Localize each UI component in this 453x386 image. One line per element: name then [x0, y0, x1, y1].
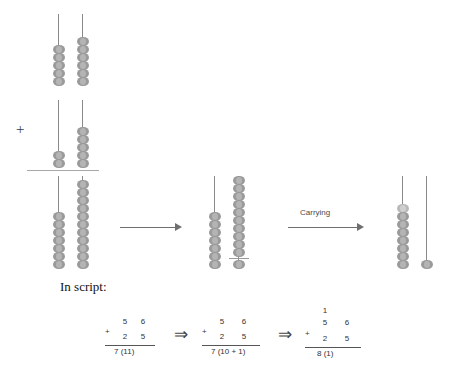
- bead: [209, 260, 221, 269]
- arrow-head: [357, 223, 364, 231]
- sum-rule: [105, 345, 155, 346]
- digit-bottom-ones: 5: [137, 332, 149, 341]
- rod-tens-addend1: [52, 14, 66, 86]
- bead: [397, 260, 409, 269]
- abacus-addend2: [52, 100, 96, 168]
- rod-tens-sum-carried: [396, 176, 410, 268]
- digit-top-ones: 6: [341, 318, 353, 327]
- rod-tens-sum-raw: [52, 176, 66, 268]
- abacus-sum-split: [208, 176, 252, 268]
- digit-top-tens: 5: [216, 317, 228, 326]
- bead: [77, 260, 89, 269]
- digit-top-tens: 5: [119, 317, 131, 326]
- rod-ones-sum-split: [232, 176, 246, 268]
- digit-bottom-ones: 5: [238, 332, 250, 341]
- arrow-to-split: [120, 222, 182, 232]
- figure-canvas: +: [0, 0, 453, 386]
- bead: [53, 159, 65, 168]
- digit-top-ones: 6: [238, 317, 250, 326]
- sum-result: 8 (1): [317, 349, 333, 358]
- arrow-carrying: [288, 222, 364, 232]
- rod-ones-sum-raw: [76, 176, 90, 268]
- arrow-shaft: [288, 227, 358, 228]
- digit-bottom-tens: 2: [119, 332, 131, 341]
- abacus-addend1: [52, 14, 96, 86]
- rod-wire: [426, 176, 427, 268]
- carrying-label: Carrying: [300, 208, 330, 217]
- operator: +: [202, 327, 207, 336]
- abacus-sum-raw: [52, 176, 96, 268]
- sum-rule: [305, 347, 361, 348]
- digit-top-tens: 5: [319, 318, 331, 327]
- bead: [53, 260, 65, 269]
- digit-top-ones: 6: [137, 317, 149, 326]
- carry-digit: 1: [319, 306, 331, 315]
- bead: [77, 159, 89, 168]
- script-step-3: 1 + 5 6 2 5 8 (1): [303, 300, 383, 362]
- rod-ones-sum-carried: [420, 176, 434, 268]
- bead: [421, 260, 433, 269]
- operator: +: [305, 329, 310, 338]
- script-step-2: + 5 6 2 5 7 (10 + 1): [200, 300, 280, 360]
- abacus-sum-carried: [396, 176, 440, 268]
- bead: [233, 260, 245, 269]
- script-arrow-2: ⇒: [278, 326, 292, 343]
- sum-result: 7 (11): [114, 347, 134, 356]
- script-step-1: + 5 6 2 5 7 (11): [103, 300, 173, 360]
- bead: [233, 248, 245, 257]
- plus-sign: +: [16, 122, 24, 137]
- script-arrow-1: ⇒: [174, 326, 188, 343]
- digit-bottom-ones: 5: [341, 334, 353, 343]
- addition-rule: [27, 170, 99, 171]
- operator: +: [105, 327, 110, 336]
- digit-bottom-tens: 2: [319, 334, 331, 343]
- rod-ones-addend2: [76, 100, 90, 168]
- arrow-head: [175, 223, 182, 231]
- bead: [77, 77, 89, 86]
- arrow-shaft: [120, 227, 176, 228]
- sum-rule: [202, 345, 260, 346]
- rod-tens-addend2: [52, 100, 66, 168]
- bead: [53, 77, 65, 86]
- sum-result: 7 (10 + 1): [211, 347, 245, 356]
- in-script-label: In script:: [60, 279, 107, 295]
- rod-ones-addend1: [76, 14, 90, 86]
- rod-tens-sum-split: [208, 176, 222, 268]
- digit-bottom-tens: 2: [216, 332, 228, 341]
- split-tick-mark: [229, 258, 249, 259]
